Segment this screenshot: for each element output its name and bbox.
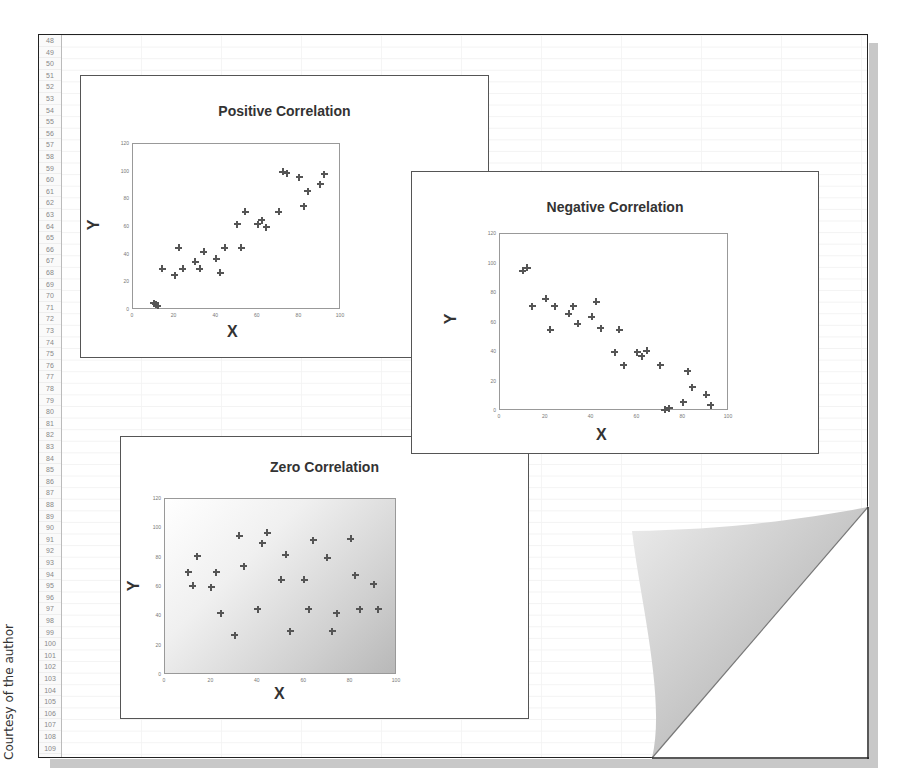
page-curl: [0, 0, 904, 777]
